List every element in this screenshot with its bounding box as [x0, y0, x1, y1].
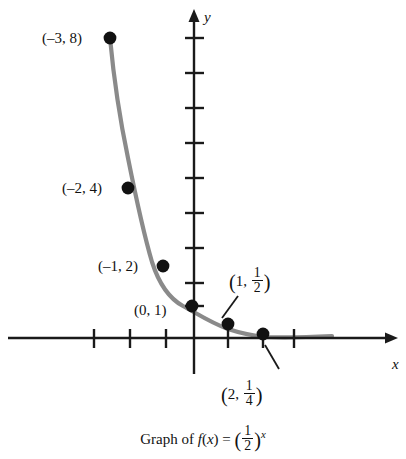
fraction-numerator: 1 [242, 424, 253, 438]
y-axis-arrowhead [189, 9, 200, 22]
exponential-graph-plot [0, 0, 406, 459]
fraction-denominator: 2 [242, 438, 253, 453]
x-axis-group [8, 329, 398, 348]
x-axis-label: x [392, 357, 399, 372]
label-close-paren: ) [264, 271, 271, 293]
label-comma: , [235, 386, 239, 402]
point-label-minus1-2: (–1, 2) [98, 259, 138, 274]
leader-lines-group [222, 296, 279, 369]
label-open-paren: ( [229, 271, 236, 293]
y-axis-label: y [204, 10, 211, 25]
fraction-one-half: 1 2 [252, 266, 263, 295]
label-open-paren: ( [221, 384, 228, 406]
fraction-numerator: 1 [252, 266, 263, 280]
data-point-minus3-8[interactable] [104, 32, 117, 45]
data-point-minus2-4[interactable] [122, 182, 135, 195]
data-point-2-quarter[interactable] [257, 328, 270, 341]
label-close-paren: ) [256, 384, 263, 406]
point-label-0-1: (0, 1) [134, 303, 167, 318]
x-axis-arrowhead [385, 333, 398, 344]
curve-group [110, 38, 332, 337]
point-label-minus3-8: (–3, 8) [42, 31, 82, 46]
fraction-numerator: 1 [244, 379, 255, 393]
point-label-minus2-4: (–2, 4) [62, 181, 102, 196]
data-point-0-1[interactable] [186, 300, 199, 313]
data-point-minus1-2[interactable] [157, 260, 170, 273]
leader-line-point-1-half [222, 296, 238, 318]
caption-equals: = [222, 431, 230, 447]
caption-fraction-one-half: 1 2 [242, 424, 253, 453]
leader-line-point-2-quarter [265, 345, 279, 369]
figure-container: (–3, 8) (–2, 4) (–1, 2) (0, 1) (1, 1 2 )… [0, 0, 406, 459]
point-label-1-half: (1, 1 2 ) [229, 266, 270, 295]
y-axis-group [185, 9, 204, 374]
caption-prefix: Graph of [140, 431, 194, 447]
fraction-denominator: 4 [244, 393, 255, 408]
caption-open-paren: ( [235, 429, 242, 451]
fraction-one-quarter: 1 4 [244, 379, 255, 408]
data-point-1-half[interactable] [222, 318, 235, 331]
caption-exponent: x [261, 428, 266, 440]
label-comma: , [243, 273, 247, 289]
fraction-denominator: 2 [252, 280, 263, 295]
figure-caption: Graph of f(x) = ( 1 2 )x [0, 424, 406, 453]
caption-close-paren: ) [254, 429, 261, 451]
exponential-curve [110, 38, 332, 337]
caption-function-arg: (x) [202, 431, 219, 447]
point-label-2-quarter: (2, 1 4 ) [221, 379, 262, 408]
